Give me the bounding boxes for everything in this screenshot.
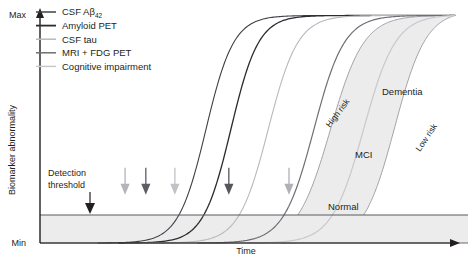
legend-label: MRI + FDG PET [62, 47, 132, 58]
detection-threshold-annotation: Detection threshold [48, 168, 95, 214]
threshold-arrow-cognitive-impairment [284, 168, 293, 195]
threshold-arrow-mri-fdg-pet [224, 168, 233, 195]
arrow-head [284, 184, 293, 195]
chart-canvas: Max Min Biomarker abnormality Time Detec… [0, 0, 470, 258]
x-axis-title: Time [236, 246, 256, 256]
zone-label-normal: Normal [328, 201, 359, 212]
legend-label: Amyloid PET [62, 20, 117, 31]
threshold-arrow-csf-tau [170, 168, 179, 195]
threshold-crossing-arrows-group [120, 168, 293, 195]
y-axis-max-label: Max [9, 10, 27, 20]
legend-label: Cognitive impairment [62, 61, 152, 72]
detection-threshold-label-line1: Detection [48, 168, 86, 178]
legend-label: CSF tau [62, 34, 97, 45]
boundary-label-low-risk: Low risk [413, 121, 439, 153]
detection-threshold-label-line2: threshold [48, 180, 85, 190]
y-axis-min-label: Min [11, 238, 26, 248]
threshold-arrow-csf-a-42 [120, 168, 129, 195]
biomarker-cascade-figure: Max Min Biomarker abnormality Time Detec… [0, 0, 470, 258]
threshold-arrow-amyloid-pet [141, 168, 150, 195]
y-axis-title: Biomarker abnormality [7, 104, 17, 195]
legend-item-csf-tau: CSF tau [36, 34, 97, 45]
legend-label: CSF Aβ42 [62, 6, 103, 19]
legend-item-amyloid-pet: Amyloid PET [36, 20, 117, 31]
arrow-head [141, 184, 150, 195]
arrow-head [224, 184, 233, 195]
arrow-head [170, 184, 179, 195]
legend-item-mri-fdg-pet: MRI + FDG PET [36, 47, 132, 58]
y-axis-arrowhead [36, 8, 44, 18]
y-axis [36, 8, 44, 243]
legend-label-subscript: 42 [95, 12, 103, 19]
legend: CSF Aβ42Amyloid PETCSF tauMRI + FDG PETC… [36, 6, 152, 71]
zone-label-mci: MCI [355, 149, 372, 160]
arrow-head [120, 184, 129, 195]
detection-threshold-arrow-head [85, 203, 95, 214]
legend-item-csf-a: CSF Aβ42 [36, 6, 103, 19]
legend-item-cognitive-impairment: Cognitive impairment [36, 61, 152, 72]
zone-label-dementia: Dementia [382, 86, 423, 97]
